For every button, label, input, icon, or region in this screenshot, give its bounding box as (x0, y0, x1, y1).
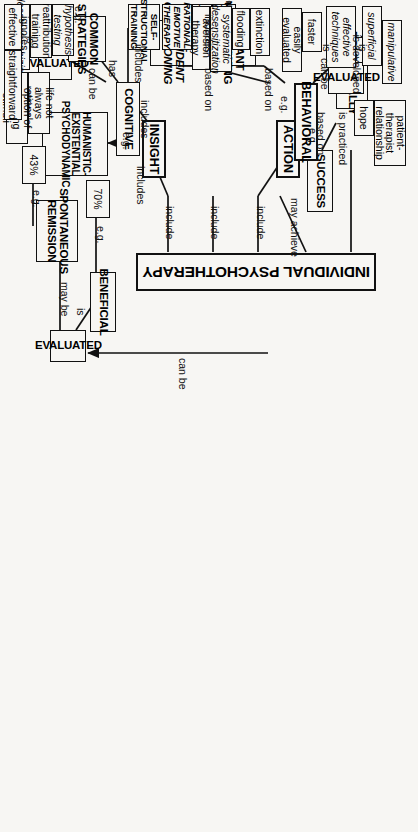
node-individual-psychotherapy[interactable]: INDIVIDUAL PSYCHOTHERAPY (136, 253, 376, 291)
node-flooding[interactable]: flooding (232, 8, 250, 50)
node-beneficial[interactable]: BENEFICIAL (90, 272, 116, 332)
link-label-has: has (107, 60, 118, 77)
node-patient-therapist-relationship[interactable]: patient-therapist relationship (374, 100, 406, 166)
node-label: 70% (93, 188, 104, 209)
node-label: HUMANISTIC-EXISTENTIAL PSYCHODYNAMIC (59, 101, 90, 187)
node-label: easily evaluated (281, 11, 303, 69)
link-label-can-be-behavioral: can be (319, 58, 330, 90)
link-label-is-effective: is (25, 36, 36, 44)
node-label: extinction (255, 10, 266, 54)
link-label-is-2: is (321, 44, 332, 52)
node-label: superficial (367, 12, 378, 59)
node-label: patient-therapist relationship (374, 103, 407, 163)
link-label-eg-behavioral: e.g. (279, 96, 290, 114)
link-label-is-developed: is developed (351, 34, 362, 94)
node-label: RATIONAL-EMOTIVE THERAPY (162, 2, 192, 52)
node-label: effective techniques (330, 9, 352, 65)
node-label: INDIVIDUAL PSYCHOTHERAPY (142, 264, 369, 280)
link-label-include-1: include (255, 206, 266, 239)
node-label: effective (8, 8, 19, 47)
node-faster[interactable]: faster (302, 12, 322, 52)
link-label-may-achieve: may achieve (289, 198, 300, 257)
link-label-eg-common: e.g. (73, 6, 84, 24)
node-reattribution-training[interactable]: reattribution training (30, 4, 52, 58)
node-evaluated-right[interactable]: EVALUATED (50, 330, 86, 362)
node-label: SUCCESS (314, 154, 326, 208)
node-label: 43% (29, 154, 40, 175)
node-extinction[interactable]: extinction (250, 8, 270, 56)
link-label-is-1: is (357, 44, 368, 52)
link-label-is-practiced: is practiced (337, 112, 348, 165)
link-label-eg-70: e.g. (95, 226, 106, 244)
link-label-based-on-1: based on (263, 68, 274, 111)
link-label-may-be: may be (59, 282, 70, 316)
node-label: BENEFICIAL (97, 269, 109, 336)
node-hypothesis-testing[interactable]: hypothesis testing (52, 4, 74, 56)
node-label: ACTION (282, 125, 295, 173)
link-label-based-on-2: based on (203, 68, 214, 111)
node-label: straightforward (8, 50, 19, 119)
link-label-eg-insight: e.g. (121, 132, 132, 150)
link-label-is-beneficial: is (75, 308, 86, 316)
node-label: reattribution training (30, 3, 52, 58)
node-easily-evaluated[interactable]: easily evaluated (282, 8, 302, 72)
link-label-includes-behavioral: includes (203, 14, 214, 53)
node-manipulative[interactable]: manipulative (382, 20, 402, 84)
link-label-can-be-right: can be (177, 358, 188, 390)
node-pct-43[interactable]: 43% (22, 146, 46, 184)
node-hope[interactable]: hope (354, 100, 374, 136)
node-label: hope (359, 106, 370, 129)
link-label-includes-cognitive-1: includes (135, 166, 146, 205)
node-pct-70[interactable]: 70% (86, 180, 110, 218)
node-label: flooding (236, 11, 247, 48)
node-label: SPONTANEOUS REMISSION (45, 188, 69, 274)
node-label: hypothesis testing (52, 5, 74, 55)
link-label-include-2: include (209, 206, 220, 239)
link-label-can-be-cognitive: can be (87, 68, 98, 100)
node-label: manipulative (387, 23, 398, 82)
node-spontaneous-remission[interactable]: SPONTANEOUS REMISSION (36, 200, 78, 262)
concept-map-canvas: INDIVIDUAL PSYCHOTHERAPY ECLECTICALLY is… (0, 0, 418, 832)
link-label-eg-action: e.g. (307, 128, 318, 146)
node-rational-emotive-therapy[interactable]: RATIONAL-EMOTIVE THERAPY (162, 4, 192, 50)
link-label-includes-cognitive-2: includes (133, 44, 144, 83)
node-superficial[interactable]: superficial (362, 6, 382, 66)
node-label: faster (307, 19, 318, 45)
node-label: BEHAVIORAL (300, 81, 313, 163)
link-label-ignores: ignores (19, 16, 30, 50)
link-label-includes-insight: includes (139, 100, 150, 139)
link-label-include-3: include (164, 206, 175, 239)
link-label-eg-43: e.g. (31, 190, 42, 208)
node-straightforward[interactable]: straightforward (4, 50, 22, 120)
node-label: EVALUATED (35, 340, 102, 352)
